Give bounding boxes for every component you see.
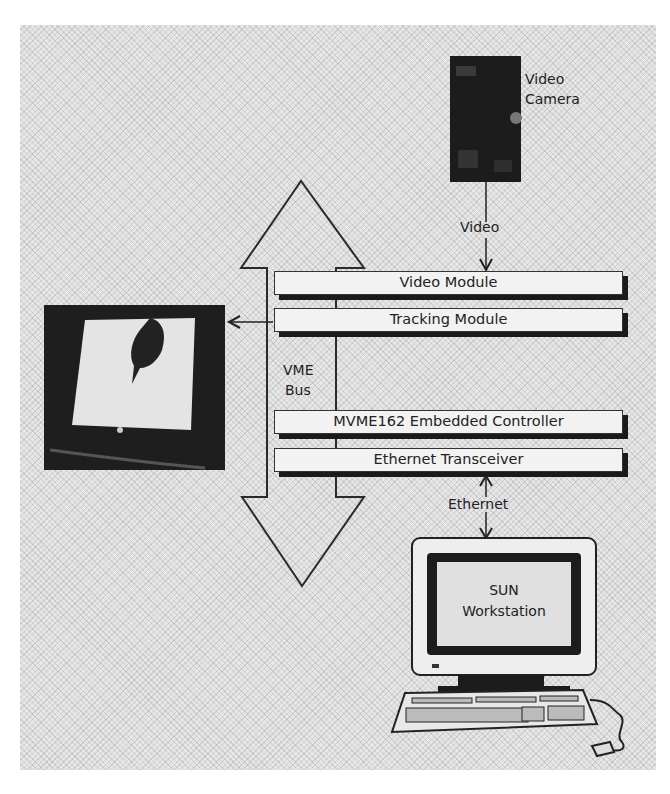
video-module-block: Video Module (274, 271, 623, 295)
camera-label-line1: Video (525, 71, 564, 88)
ethernet-transceiver-block: Ethernet Transceiver (274, 448, 623, 472)
video-link-label: Video (460, 219, 499, 236)
vme-bus-label-line1: VME (283, 362, 314, 379)
ethernet-link-label: Ethernet (448, 496, 508, 513)
tracking-module-block: Tracking Module (274, 308, 623, 332)
workstation-label-line1: SUN (437, 582, 571, 599)
camera-label-line2: Camera (525, 91, 580, 108)
mvme162-controller-block: MVME162 Embedded Controller (274, 410, 623, 434)
tv-monitor-icon (44, 305, 225, 470)
diagram-canvas (0, 0, 670, 794)
sun-workstation-icon (392, 538, 624, 756)
vme-bus-label-line2: Bus (285, 382, 311, 399)
workstation-label-line2: Workstation (437, 603, 571, 620)
video-camera-icon (450, 56, 522, 182)
